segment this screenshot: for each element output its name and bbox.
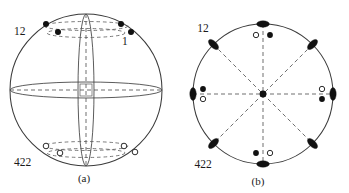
- mirror-lens-e: [330, 88, 336, 101]
- pole-upper-right-inner: [128, 29, 134, 35]
- pole-left-lower: [200, 96, 205, 101]
- figure-container: 12 1 422 (a): [0, 0, 349, 193]
- pole-upper-left-outer: [43, 21, 49, 27]
- pole-top-left: [253, 32, 258, 37]
- pole-bottom-left: [253, 150, 259, 156]
- pole-upper-right-outer: [118, 21, 124, 27]
- pole-lower-right-inner: [132, 149, 138, 155]
- panel-a: 12 1 422 (a): [10, 14, 162, 185]
- pole-right-upper: [319, 86, 324, 91]
- label-point-group-top-b: 12: [197, 22, 209, 34]
- mirror-lens-w: [190, 88, 196, 101]
- stereographic-projection-figure: 12 1 422 (a): [0, 0, 349, 193]
- pole-bottom-right: [267, 150, 272, 155]
- mirror-lens-s: [257, 161, 270, 167]
- label-pole-one-a: 1: [122, 35, 128, 47]
- mirror-lens-n: [257, 21, 270, 27]
- panel-caption-a: (a): [78, 172, 91, 185]
- panel-b: 12 422 (b): [190, 21, 336, 188]
- center-point: [260, 91, 267, 98]
- pole-top-right: [267, 32, 273, 38]
- pole-upper-left-inner: [55, 29, 61, 35]
- pole-lower-left-outer: [43, 143, 49, 149]
- label-point-group-bottom-b: 422: [194, 158, 212, 170]
- pole-lower-right-outer: [121, 143, 127, 149]
- pole-left-upper: [200, 86, 206, 92]
- label-point-group-top-a: 12: [14, 25, 26, 37]
- pole-right-lower: [319, 96, 325, 102]
- pole-lower-left-inner: [57, 150, 63, 156]
- panel-caption-b: (b): [252, 175, 265, 188]
- label-point-group-bottom-a: 422: [14, 156, 32, 168]
